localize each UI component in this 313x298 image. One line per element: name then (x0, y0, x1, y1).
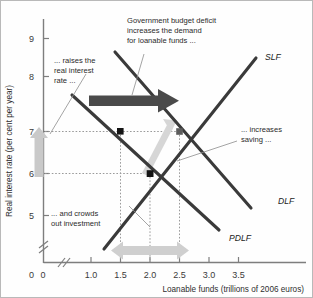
leader-crowding-out-note (129, 206, 150, 227)
rate-note-line-3: rate ... (54, 76, 76, 85)
x-tick-label-2-0: 2.0 (144, 270, 157, 280)
y-tick-label-8: 8 (29, 72, 34, 82)
marker-new-equilibrium (176, 128, 183, 135)
y-tick-label-9: 9 (29, 34, 34, 44)
marker-original-equilibrium (147, 170, 154, 177)
marker-old-demand-at-new-rate (117, 128, 124, 135)
loanable-funds-chart: 9 8 7 6 5 0 0 1.0 1.5 2.0 2.5 3.0 3.5 (1, 1, 313, 298)
crowding-out-note-line-1: ... and crowds (51, 209, 98, 218)
x-axis-ticks: 0 1.0 1.5 2.0 2.5 3.0 3.5 (40, 257, 244, 280)
secondary-arrows (30, 119, 189, 260)
annotation-saving-note: ... increases saving ... (241, 125, 282, 144)
deficit-note-line-2: increases the demand (127, 26, 202, 35)
x-tick-label-0: 0 (40, 270, 45, 280)
y-tick-label-6: 6 (29, 169, 34, 179)
y-tick-label-0: 0 (29, 270, 34, 280)
curve-label-dlf: DLF (278, 196, 295, 206)
x-tick-label-1-5: 1.5 (114, 270, 127, 280)
investment-decrease-arrow (111, 242, 150, 260)
saving-note-line-2: saving ... (241, 135, 271, 144)
x-tick-label-3-5: 3.5 (232, 270, 245, 280)
y-tick-label-5: 5 (29, 211, 34, 221)
saving-along-slf-arrow (142, 119, 177, 176)
x-axis-title: Loanable funds (trillions of 2006 euros) (162, 285, 304, 294)
annotation-deficit-note: Government budget deficit increases the … (127, 16, 217, 45)
x-tick-label-1-0: 1.0 (85, 270, 98, 280)
deficit-note-line-3: for loanable funds ... (127, 36, 196, 45)
annotation-rate-note: ... raises the real interest rate ... (54, 56, 95, 85)
annotation-crowding-out-note: ... and crowds out investment (51, 209, 101, 228)
curve-label-pdlf: PDLF (229, 233, 252, 243)
curve-dlf (115, 52, 251, 208)
rate-note-line-2: real interest (54, 66, 95, 75)
x-tick-label-3-0: 3.0 (203, 270, 216, 280)
curve-label-slf: SLF (265, 52, 282, 62)
figure-frame: 9 8 7 6 5 0 0 1.0 1.5 2.0 2.5 3.0 3.5 (0, 0, 313, 298)
x-tick-label-2-5: 2.5 (173, 270, 186, 280)
saving-increase-arrow (150, 242, 189, 260)
saving-note-line-1: ... increases (241, 125, 282, 134)
rate-note-line-1: ... raises the (54, 56, 95, 65)
y-axis-title: Real interest rate (per cent per year) (5, 85, 14, 217)
deficit-note-line-1: Government budget deficit (127, 16, 217, 25)
crowding-out-note-line-2: out investment (51, 219, 101, 228)
